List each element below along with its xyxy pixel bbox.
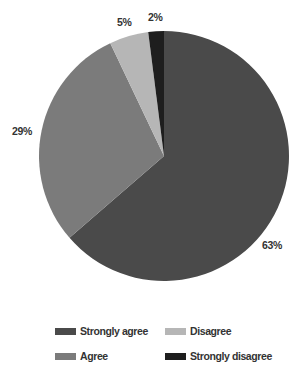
legend-item-strongly-agree: Strongly agree: [55, 325, 148, 337]
legend-label-agree: Agree: [80, 350, 108, 362]
legend-item-disagree: Disagree: [165, 325, 231, 337]
pie-chart: 63% 29% 5% 2%: [0, 0, 304, 378]
slice-label-strongly-agree: 63%: [262, 239, 283, 251]
legend-item-strongly-disagree: Strongly disagree: [165, 350, 272, 362]
legend-swatch-disagree: [165, 328, 186, 335]
legend-swatch-strongly-disagree: [165, 353, 186, 360]
legend-label-strongly-disagree: Strongly disagree: [190, 350, 272, 362]
legend-label-strongly-agree: Strongly agree: [80, 325, 148, 337]
pie-slices: [39, 31, 289, 281]
legend-swatch-strongly-agree: [55, 328, 76, 335]
legend-label-disagree: Disagree: [190, 325, 231, 337]
slice-label-disagree: 5%: [117, 16, 133, 28]
slice-label-agree: 29%: [12, 125, 33, 137]
legend-swatch-agree: [55, 353, 76, 360]
slice-label-strongly-disagree: 2%: [148, 11, 164, 23]
legend-item-agree: Agree: [55, 350, 108, 362]
